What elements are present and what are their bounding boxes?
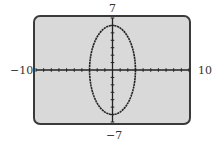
plot-area bbox=[0, 0, 220, 145]
